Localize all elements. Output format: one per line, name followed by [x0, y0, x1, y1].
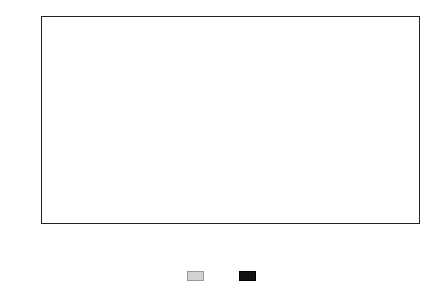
chart-legend: [0, 268, 448, 284]
legend-item-mean: [239, 271, 261, 281]
bar-chart: [0, 0, 448, 291]
legend-swatch-percent: [187, 271, 204, 281]
legend-item-percent: [187, 271, 209, 281]
bar-series-container: [41, 16, 420, 224]
legend-swatch-mean: [239, 271, 256, 281]
